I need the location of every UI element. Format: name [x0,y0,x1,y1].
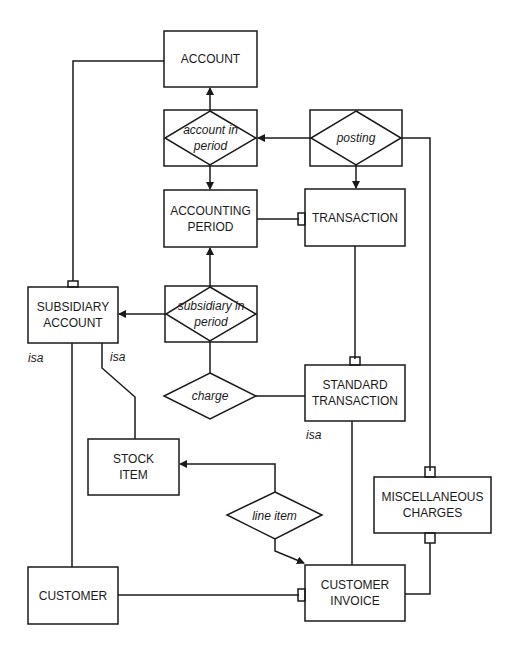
accounting-period-label: ACCOUNTING PERIOD [164,190,257,247]
invoice-cardinality [298,589,305,601]
standard-transaction-text-2: TRANSACTION [312,393,398,409]
account-label: ACCOUNT [164,31,257,87]
customer-text: CUSTOMER [39,588,107,604]
subsidiary-in-period-label: subsidiary in period [165,286,257,342]
customer-label: CUSTOMER [28,567,118,624]
customer-invoice-text-1: CUSTOMER [321,577,389,593]
accounting-period-text-2: PERIOD [187,219,233,235]
line-item-label: line item [227,492,322,539]
isa-label-stock: isa [110,350,125,364]
charge-label: charge [164,373,256,419]
charge-text: charge [192,388,229,404]
misc-charges-text-2: CHARGES [403,505,462,521]
transaction-cardinality [298,213,305,225]
standard-transaction-text-1: STANDARD [322,377,387,393]
misc-charges-text-1: MISCELLANEOUS [381,489,483,505]
misc-charges-label: MISCELLANEOUS CHARGES [374,477,491,533]
subsidiary-account-label: SUBSIDIARY ACCOUNT [28,287,118,343]
stock-item-label: STOCK ITEM [88,439,179,495]
accounting-period-text-1: ACCOUNTING [170,203,251,219]
misc-invoice-line [405,543,430,594]
transaction-label: TRANSACTION [305,189,405,246]
standard-transaction-label: STANDARD TRANSACTION [305,365,405,421]
posting-text: posting [337,130,376,146]
customer-invoice-text-2: INVOICE [330,593,379,609]
account-in-period-label: account in period [164,110,257,166]
line-item-text: line item [252,508,297,524]
posting-label: posting [310,110,402,166]
account-in-period-text-1: account in [183,122,238,138]
customer-invoice-label: CUSTOMER INVOICE [305,565,405,621]
transaction-text: TRANSACTION [312,210,398,226]
account-text: ACCOUNT [181,51,240,67]
line-item-to-stock [180,464,275,492]
misc-bottom-cardinality [425,533,435,543]
isa-label-customer: isa [28,351,43,365]
subsidiary-in-period-text-2: period [194,314,227,330]
subsidiary-account-text-1: SUBSIDIARY [37,299,109,315]
isa-label-standard: isa [306,428,321,442]
account-subsidiary-line [73,61,164,281]
line-item-to-invoice [275,539,304,563]
stock-item-text-1: STOCK [113,451,154,467]
subsidiary-in-period-text-1: subsidiary in [178,298,245,314]
stock-item-text-2: ITEM [119,467,148,483]
account-in-period-text-2: period [194,138,227,154]
subsidiary-account-text-2: ACCOUNT [43,315,102,331]
